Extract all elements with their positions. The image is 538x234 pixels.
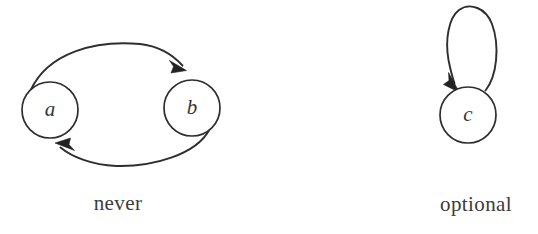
edge-a-to-b-arrowhead	[170, 61, 187, 74]
edge-c-to-c	[444, 6, 497, 92]
node-a-label: a	[45, 97, 56, 121]
panel-never: a b never	[22, 43, 220, 215]
panel-optional: c optional	[440, 6, 512, 215]
caption-never: never	[94, 191, 143, 215]
node-b-label: b	[187, 95, 198, 119]
edge-c-to-c-loop	[447, 6, 496, 90]
node-a[interactable]: a	[22, 82, 78, 138]
node-c[interactable]: c	[440, 87, 496, 143]
caption-optional: optional	[440, 192, 512, 216]
edge-b-to-a-arrowhead	[55, 138, 75, 151]
node-c-label: c	[463, 102, 473, 126]
node-b[interactable]: b	[164, 80, 220, 136]
state-diagram-figure: a b never c optional	[0, 0, 538, 234]
